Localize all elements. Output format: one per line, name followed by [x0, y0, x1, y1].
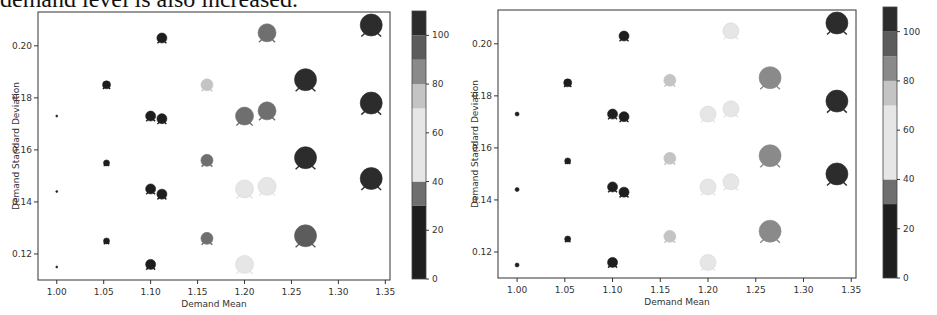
colorbar-tick-label: 60 — [432, 128, 444, 138]
x-axis-label: Demand Mean — [644, 297, 710, 307]
data-point — [564, 79, 572, 87]
data-point — [515, 263, 519, 267]
colorbar-tick-label: 80 — [432, 79, 444, 89]
data-point — [759, 145, 781, 168]
right-chart-panel: 1.001.051.101.151.201.251.301.350.120.14… — [468, 0, 937, 315]
x-tick-label: 1.00 — [507, 285, 527, 295]
data-point — [565, 158, 571, 164]
colorbar-segment — [412, 182, 426, 206]
data-point — [295, 69, 317, 92]
x-tick-label: 1.35 — [375, 287, 395, 297]
data-point — [236, 107, 254, 125]
x-tick-label: 1.25 — [746, 285, 766, 295]
data-point — [608, 109, 618, 119]
colorbar-tick-label: 40 — [903, 174, 915, 184]
data-point — [723, 23, 739, 39]
left-scatter-chart: 1.001.051.101.151.201.251.301.350.120.14… — [0, 0, 468, 315]
colorbar-tick-label: 80 — [903, 76, 915, 86]
colorbar-tick-label: 40 — [432, 177, 444, 187]
data-point — [103, 81, 111, 89]
y-tick-label: 0.20 — [472, 39, 492, 49]
x-tick-label: 1.05 — [94, 287, 114, 297]
data-point — [664, 230, 676, 242]
colorbar-tick-label: 100 — [432, 30, 449, 40]
colorbar-segment — [883, 179, 897, 204]
data-point — [826, 90, 848, 113]
data-point — [619, 112, 629, 122]
data-point — [664, 152, 676, 164]
x-axis-label: Demand Mean — [181, 299, 247, 309]
data-point — [236, 180, 254, 198]
data-point — [619, 187, 629, 197]
data-point — [146, 184, 156, 194]
colorbar-tick-label: 100 — [903, 27, 920, 37]
data-point — [565, 236, 571, 242]
colorbar-segment — [883, 204, 897, 278]
plot-frame — [498, 10, 856, 278]
colorbar-segment — [412, 84, 426, 108]
data-point — [360, 168, 382, 191]
x-tick-label: 1.20 — [698, 285, 718, 295]
colorbar-tick-label: 20 — [903, 224, 915, 234]
data-point — [201, 79, 213, 91]
data-point — [157, 114, 167, 124]
colorbar-segment — [412, 60, 426, 84]
colorbar-segment — [883, 7, 897, 32]
data-point — [104, 238, 110, 244]
data-point — [826, 12, 848, 35]
left-chart-panel: 1.001.051.101.151.201.251.301.350.120.14… — [0, 0, 468, 315]
colorbar-segment — [412, 11, 426, 35]
x-tick-label: 1.10 — [603, 285, 623, 295]
x-tick-label: 1.20 — [234, 287, 254, 297]
data-point — [360, 92, 382, 115]
x-tick-label: 1.25 — [281, 287, 301, 297]
data-point — [146, 259, 156, 269]
colorbar-segment — [412, 108, 426, 181]
data-point — [236, 255, 254, 273]
y-axis-label: Demand Standard Deviation — [11, 82, 21, 210]
y-tick-label: 0.12 — [12, 249, 32, 259]
data-point — [295, 225, 317, 248]
data-point — [258, 102, 276, 120]
data-point — [201, 232, 213, 244]
data-point — [759, 67, 781, 90]
y-tick-label: 0.20 — [12, 41, 32, 51]
data-point — [360, 14, 382, 37]
data-point — [723, 174, 739, 190]
data-point — [759, 220, 781, 243]
x-tick-label: 1.30 — [793, 285, 813, 295]
data-point — [515, 112, 519, 116]
colorbar-tick-label: 0 — [903, 273, 909, 283]
data-point — [608, 182, 618, 192]
data-point — [619, 31, 629, 41]
y-axis-label: Demand Standard Deviation — [470, 80, 480, 208]
x-tick-label: 1.05 — [555, 285, 575, 295]
data-point — [157, 33, 167, 43]
data-point — [157, 189, 167, 199]
data-point — [201, 154, 213, 166]
x-tick-label: 1.15 — [650, 285, 670, 295]
x-tick-label: 1.15 — [188, 287, 208, 297]
colorbar-segment — [412, 35, 426, 59]
data-point — [56, 191, 58, 193]
data-point — [258, 24, 276, 42]
data-point — [700, 106, 716, 122]
x-tick-label: 1.00 — [47, 287, 67, 297]
colorbar-segment — [883, 106, 897, 180]
x-tick-label: 1.10 — [141, 287, 161, 297]
data-point — [515, 188, 519, 192]
data-point — [56, 115, 58, 117]
colorbar-segment — [412, 206, 426, 279]
data-point — [700, 179, 716, 195]
colorbar-tick-label: 60 — [903, 125, 915, 135]
data-point — [295, 147, 317, 170]
x-tick-label: 1.30 — [328, 287, 348, 297]
plot-frame — [38, 12, 390, 280]
colorbar-segment — [883, 81, 897, 106]
data-point — [664, 74, 676, 86]
colorbar-tick-label: 20 — [432, 225, 444, 235]
colorbar-segment — [883, 56, 897, 81]
x-tick-label: 1.35 — [841, 285, 861, 295]
data-point — [146, 111, 156, 121]
data-point — [826, 163, 848, 186]
